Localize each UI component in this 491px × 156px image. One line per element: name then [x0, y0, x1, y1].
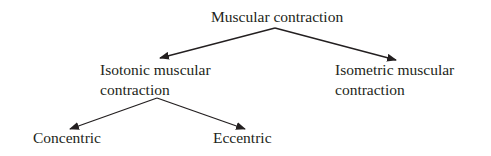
node-isotonic: Isotonic muscular contraction	[100, 60, 211, 100]
node-label-line1: Isotonic muscular	[100, 60, 211, 80]
node-muscular-contraction: Muscular contraction	[211, 7, 343, 27]
node-eccentric: Eccentric	[213, 128, 272, 148]
node-label-line2: contraction	[100, 80, 211, 100]
arrow-root-to-isometric	[275, 28, 396, 60]
arrow-root-to-isotonic	[160, 28, 275, 58]
arrow-isotonic-to-concentric	[70, 98, 157, 129]
diagram-canvas: Muscular contraction Isotonic muscular c…	[0, 0, 491, 156]
node-label: Muscular contraction	[211, 8, 343, 25]
node-isometric: Isometric muscular contraction	[335, 60, 454, 100]
node-label-line1: Isometric muscular	[335, 60, 454, 80]
arrow-isotonic-to-eccentric	[157, 98, 245, 129]
node-concentric: Concentric	[33, 128, 101, 148]
node-label: Eccentric	[213, 129, 272, 146]
node-label: Concentric	[33, 129, 101, 146]
node-label-line2: contraction	[335, 80, 454, 100]
